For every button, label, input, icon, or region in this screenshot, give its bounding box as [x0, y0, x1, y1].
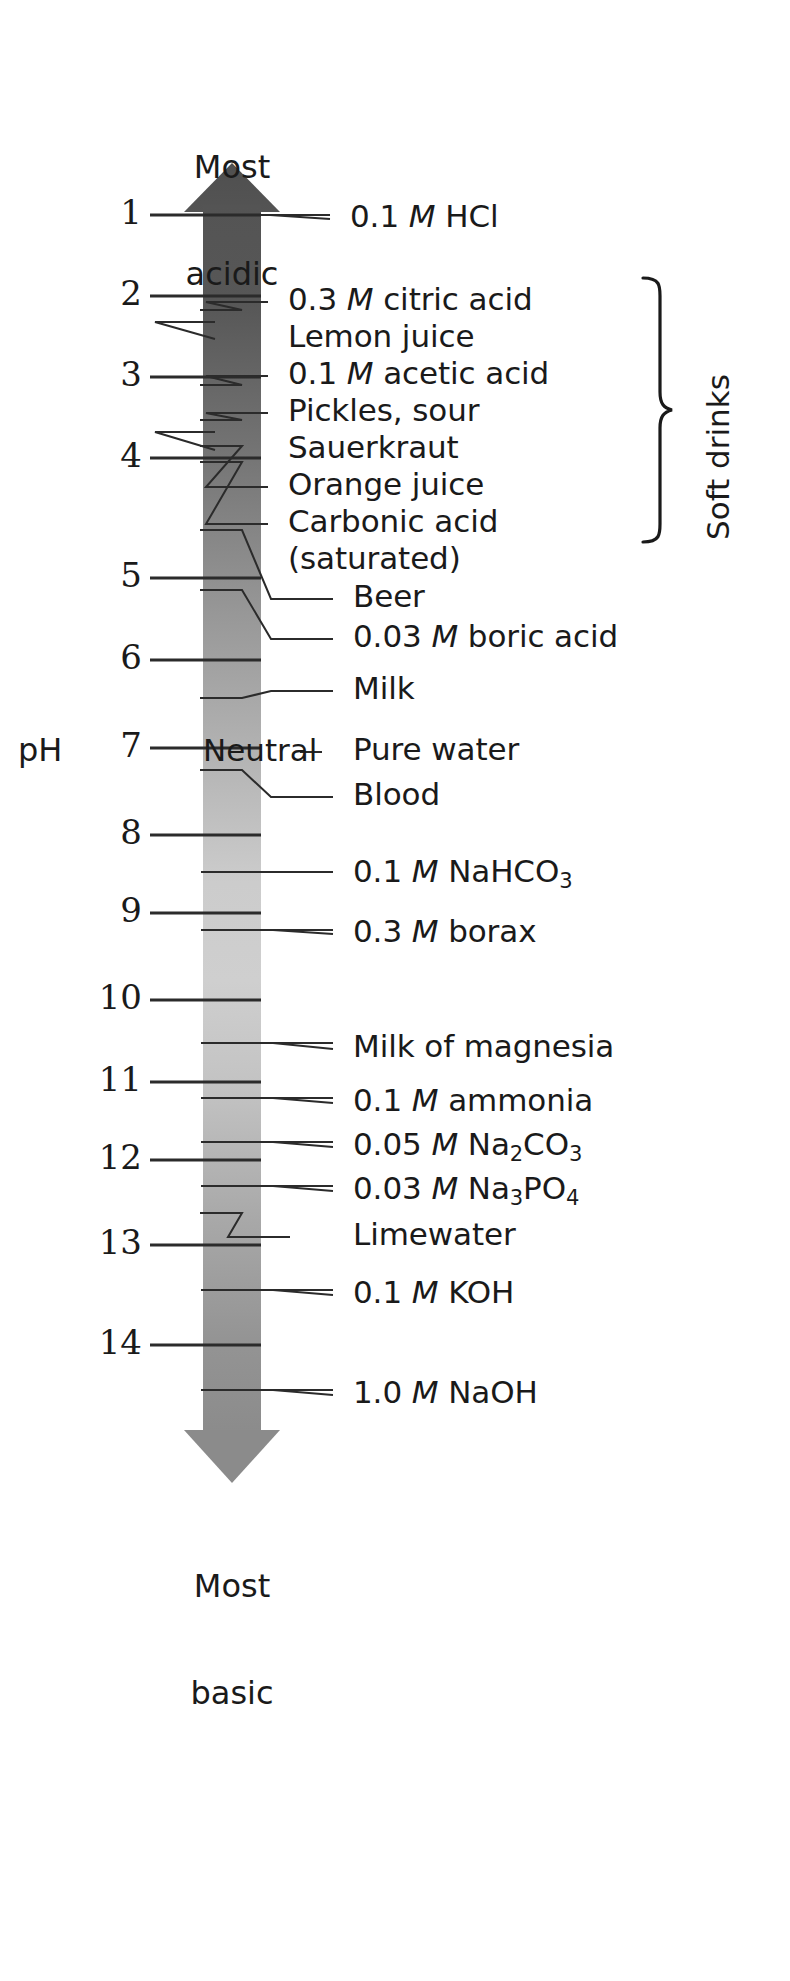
substance-label: Orange juice: [288, 468, 484, 501]
substance-label: Sauerkraut: [288, 431, 459, 464]
most-basic-line1: Most: [142, 1569, 322, 1605]
axis-number: 7: [60, 725, 142, 765]
ph-scale-diagram: Most acidic Most basic pH Neutral Soft d…: [0, 0, 790, 1981]
axis-number: 5: [60, 555, 142, 595]
substance-label: 0.05 M Na2CO3: [353, 1128, 582, 1165]
substance-label: 0.1 M KOH: [353, 1276, 514, 1309]
most-acidic-line1: Most: [142, 150, 322, 186]
substance-label: Blood: [353, 778, 440, 811]
ph-axis-label: pH: [18, 731, 62, 769]
axis-number: 1: [60, 192, 142, 232]
soft-drinks-group-label: Soft drinks: [700, 374, 736, 540]
neutral-label: Neutral: [203, 732, 317, 768]
substance-label: 0.1 M acetic acid: [288, 357, 549, 390]
ph-gradient-bar: [203, 205, 261, 1437]
substance-label: Lemon juice: [288, 320, 474, 353]
axis-number: 10: [60, 977, 142, 1017]
axis-number: 8: [60, 812, 142, 852]
substance-label: 0.03 M Na3PO4: [353, 1172, 579, 1209]
axis-number: 2: [60, 273, 142, 313]
substance-label: Milk: [353, 672, 415, 705]
axis-number: 14: [60, 1322, 142, 1362]
substance-label: Pure water: [353, 733, 519, 766]
substance-label: Carbonic acid: [288, 505, 498, 538]
substance-label: Pickles, sour: [288, 394, 479, 427]
substance-label: 0.1 M ammonia: [353, 1084, 593, 1117]
substance-label: Beer: [353, 580, 425, 613]
most-basic-caption: Most basic: [142, 1497, 322, 1784]
most-basic-line2: basic: [142, 1676, 322, 1712]
axis-number: 11: [60, 1059, 142, 1099]
axis-number: 3: [60, 354, 142, 394]
axis-number: 12: [60, 1137, 142, 1177]
axis-number: 6: [60, 637, 142, 677]
substance-label: 0.3 M citric acid: [288, 283, 532, 316]
substance-label: 0.1 M HCl: [350, 200, 498, 233]
substance-label: 0.3 M borax: [353, 915, 536, 948]
substance-label: (saturated): [288, 542, 461, 575]
substance-label: 0.1 M NaHCO3: [353, 855, 573, 892]
axis-number: 4: [60, 435, 142, 475]
substance-label: 1.0 M NaOH: [353, 1376, 538, 1409]
arrow-head-bottom: [184, 1430, 280, 1483]
soft-drinks-brace: [643, 278, 672, 542]
substance-label: Limewater: [353, 1218, 516, 1251]
axis-number: 9: [60, 890, 142, 930]
axis-number: 13: [60, 1222, 142, 1262]
substance-label: 0.03 M boric acid: [353, 620, 618, 653]
substance-label: Milk of magnesia: [353, 1030, 614, 1063]
